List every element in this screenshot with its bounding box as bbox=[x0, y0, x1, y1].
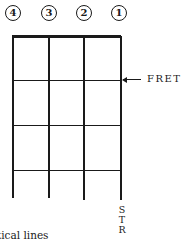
string-label-letter: R bbox=[117, 225, 127, 235]
string-label: S T R bbox=[117, 205, 127, 235]
string-2-full bbox=[83, 36, 85, 200]
fret-line-1 bbox=[12, 80, 121, 81]
arrow-shaft bbox=[123, 79, 141, 80]
fret-label: FRET bbox=[147, 73, 181, 84]
nut-line bbox=[12, 35, 121, 38]
string-3-full bbox=[48, 36, 50, 198]
string-number-3: 3 bbox=[41, 5, 57, 21]
string-1-full bbox=[120, 36, 122, 200]
caption-fragment: tical lines bbox=[0, 229, 49, 240]
string-number-4: 4 bbox=[5, 5, 21, 21]
string-number-1: 1 bbox=[111, 5, 127, 21]
string-number-2: 2 bbox=[76, 5, 92, 21]
fret-line-3 bbox=[12, 170, 121, 171]
string-4-full bbox=[12, 36, 14, 198]
fret-line-2 bbox=[12, 125, 121, 126]
